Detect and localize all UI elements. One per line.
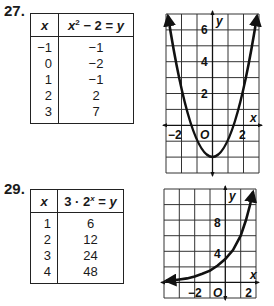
- x-tick-neg2: −2: [168, 128, 182, 142]
- exponential-graph: y x 8 4 −2 2 O: [161, 186, 259, 300]
- graphs-canvas: y x 6 4 2 −2 2 O y x 8 4 −2: [0, 0, 274, 306]
- origin-label: O: [213, 286, 223, 300]
- x-axis-label: x: [249, 268, 258, 282]
- x-tick-2: 2: [245, 286, 252, 300]
- parabola-graph: y x 6 4 2 −2 2 O: [163, 11, 262, 176]
- origin-label: O: [200, 128, 210, 142]
- y-axis-label: y: [228, 189, 237, 203]
- x-tick-2: 2: [239, 128, 246, 142]
- y-tick-2: 2: [201, 87, 208, 101]
- y-tick-4: 4: [201, 55, 208, 69]
- y-tick-4: 4: [214, 247, 221, 261]
- y-tick-6: 6: [201, 23, 208, 37]
- x-axis-label: x: [249, 111, 258, 125]
- y-axis-label: y: [215, 14, 224, 28]
- y-tick-8: 8: [214, 216, 221, 230]
- x-tick-neg2: −2: [188, 286, 202, 300]
